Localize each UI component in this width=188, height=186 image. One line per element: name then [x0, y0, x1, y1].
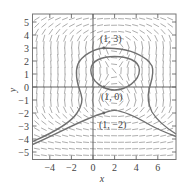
slope-segment [161, 24, 166, 27]
slope-segment [86, 48, 87, 55]
slope-segment [49, 29, 53, 35]
slope-segment [65, 54, 66, 61]
y-tick-label: −1 [18, 95, 29, 106]
slope-segment [35, 23, 40, 28]
slope-segment [132, 142, 138, 143]
slope-segment [34, 128, 40, 131]
slope-segment [41, 155, 47, 156]
slope-segment [84, 36, 88, 42]
slope-segment [146, 155, 152, 156]
y-tick-label: −5 [18, 147, 29, 158]
slope-segment [153, 155, 159, 156]
slope-segment [50, 107, 52, 114]
slope-segment [55, 135, 61, 137]
slope-segment [169, 35, 171, 42]
slope-segment [156, 100, 157, 107]
slope-segment [163, 93, 164, 100]
slope-segment [83, 122, 89, 124]
slope-segment [127, 61, 129, 68]
slope-segment [149, 54, 150, 61]
slope-segment [163, 87, 164, 94]
slope-segment [97, 115, 103, 117]
slope-segment [111, 77, 117, 78]
slope-segment [36, 106, 38, 113]
slope-segment [72, 41, 73, 48]
slope-segment [37, 54, 38, 61]
slope-segment [153, 142, 159, 143]
slope-segment [125, 31, 131, 33]
slope-segment [57, 87, 58, 94]
slope-segment [132, 25, 138, 27]
slope-segment [44, 54, 45, 61]
point-marker [102, 47, 105, 50]
slope-segment [41, 121, 46, 125]
slope-segment [64, 35, 67, 42]
slope-segment [126, 87, 129, 93]
slope-segment [105, 74, 108, 80]
slope-segment [58, 41, 59, 48]
slope-segment [69, 135, 75, 136]
slope-segment [72, 74, 73, 81]
slope-segment [156, 93, 157, 100]
slope-segment [147, 35, 151, 41]
slope-segment [125, 25, 131, 26]
slope-segment [163, 54, 164, 61]
slope-segment [112, 68, 116, 73]
slope-segment [48, 128, 54, 131]
slope-segment [156, 74, 157, 81]
slope-segment [51, 61, 52, 68]
slope-segment [44, 100, 45, 107]
slope-segment [170, 93, 171, 100]
slope-segment [70, 107, 73, 113]
x-tick-label: 4 [134, 162, 139, 173]
slope-segment [62, 148, 68, 149]
slope-segment [153, 135, 159, 136]
slope-segment [79, 41, 80, 48]
slope-segment [76, 135, 82, 136]
slope-segment [48, 121, 53, 125]
slope-segment [153, 148, 159, 149]
slope-segment [48, 142, 54, 143]
slope-segment [167, 155, 173, 156]
slope-segment [118, 25, 124, 26]
slope-segment [146, 149, 152, 150]
x-tick-label: −4 [44, 162, 55, 173]
y-tick-label: 0 [24, 82, 29, 93]
slope-segment [48, 17, 54, 20]
slope-segment [85, 80, 87, 87]
slope-segment [49, 114, 53, 119]
slope-segment [139, 129, 145, 130]
slope-segment [56, 114, 60, 119]
x-tick-label: 0 [91, 162, 96, 173]
point-label-1-3: (1, 3) [100, 33, 122, 45]
slope-segment [146, 129, 152, 131]
slope-segment [76, 114, 81, 118]
slope-segment [132, 31, 138, 34]
slope-segment [170, 100, 171, 107]
slope-segment [139, 18, 145, 19]
slope-segment [76, 24, 82, 27]
y-tick-label: 1 [24, 69, 29, 80]
slope-segment [141, 100, 143, 107]
slope-segment [57, 80, 58, 87]
slope-segment [78, 100, 79, 107]
slope-segment [146, 142, 152, 143]
slope-segment [83, 115, 88, 118]
point-marker [102, 112, 105, 115]
slope-segment [104, 116, 110, 117]
slope-segment [155, 107, 158, 113]
slope-segment [37, 41, 38, 48]
slope-segment [44, 80, 45, 87]
slope-segment [35, 29, 39, 35]
y-tick-label: 3 [24, 43, 29, 54]
slope-segment [132, 136, 138, 137]
slope-segment [85, 87, 87, 94]
slope-segment [65, 41, 66, 48]
slope-segment [121, 67, 122, 74]
slope-segment [132, 122, 138, 123]
slope-segment [64, 80, 65, 87]
slope-segment [149, 48, 150, 55]
slope-segment [41, 142, 47, 144]
slope-segment [97, 136, 103, 137]
slope-segment [155, 35, 158, 41]
